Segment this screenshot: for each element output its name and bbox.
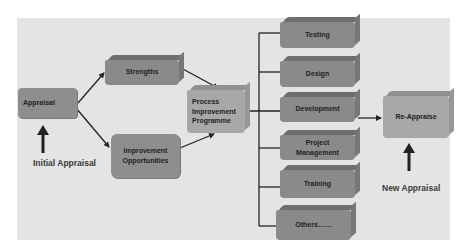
node-others: Others…… <box>276 210 351 240</box>
node-project-management: ProjectManagement <box>280 135 355 160</box>
arrow-appraisal-improvement <box>76 108 109 147</box>
initial-appraisal-arrow-icon <box>37 125 49 135</box>
new-appraisal-arrow-icon <box>403 143 415 153</box>
node-design: Design <box>280 61 355 87</box>
node-appraisal: Appraisal <box>18 88 77 118</box>
node-development: Development <box>280 97 355 122</box>
label-initial-appraisal: Initial Appraisal <box>33 158 96 168</box>
arrow-appraisal-strengths <box>78 73 104 103</box>
label-new-appraisal: New Appraisal <box>382 183 440 193</box>
node-improvement-opportunities: ImprovementOpportunities <box>111 134 180 178</box>
node-strengths: Strengths <box>105 60 179 85</box>
arrow-improvement-process <box>180 134 214 148</box>
node-training: Training <box>280 170 355 198</box>
node-testing: Testing <box>280 22 355 48</box>
node-re-appraise: Re-Appraise <box>383 96 449 138</box>
node-process-improvement-programme: ProcessImprovementProgramme <box>187 90 245 133</box>
